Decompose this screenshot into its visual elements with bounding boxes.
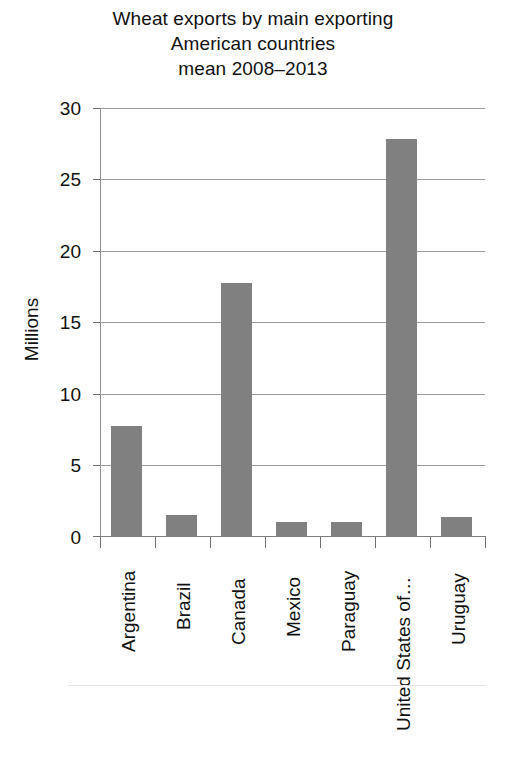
x-label-mexico: Mexico bbox=[284, 577, 303, 637]
x-tick-mark-5 bbox=[375, 537, 376, 548]
x-label-canada: Canada bbox=[229, 578, 248, 645]
gridline-25 bbox=[100, 179, 485, 180]
gridline-5 bbox=[100, 465, 485, 466]
x-tick-mark-0 bbox=[100, 537, 101, 548]
x-tick-mark-1 bbox=[155, 537, 156, 548]
x-tick-mark-4 bbox=[320, 537, 321, 548]
x-axis-line bbox=[100, 536, 486, 537]
bar-canada[interactable] bbox=[221, 283, 252, 536]
y-tick-label-20: 20 bbox=[35, 242, 81, 261]
x-label-united-states-of: United States of… bbox=[394, 577, 413, 731]
bar-mexico[interactable] bbox=[276, 522, 307, 536]
x-tick-mark-2 bbox=[210, 537, 211, 548]
y-tick-label-25: 25 bbox=[35, 170, 81, 189]
y-tick-label-0: 0 bbox=[35, 528, 81, 547]
x-tick-mark-6 bbox=[430, 537, 431, 548]
bar-argentina[interactable] bbox=[111, 426, 142, 536]
y-tick-label-15: 15 bbox=[35, 313, 81, 332]
gridline-15 bbox=[100, 322, 485, 323]
bottom-border-line bbox=[68, 685, 486, 686]
gridline-10 bbox=[100, 394, 485, 395]
y-axis-tick-labels: 30 25 20 15 10 5 0 bbox=[35, 0, 81, 781]
x-tick-mark-7 bbox=[485, 537, 486, 548]
y-tick-label-10: 10 bbox=[35, 385, 81, 404]
bar-paraguay[interactable] bbox=[331, 522, 362, 536]
y-tick-label-5: 5 bbox=[35, 456, 81, 475]
x-label-paraguay: Paraguay bbox=[339, 571, 358, 652]
y-tick-label-30: 30 bbox=[35, 99, 81, 118]
bar-brazil[interactable] bbox=[166, 515, 197, 536]
x-label-uruguay: Uruguay bbox=[449, 573, 468, 645]
gridline-20 bbox=[100, 251, 485, 252]
gridline-30 bbox=[100, 108, 485, 109]
bar-united-states-of[interactable] bbox=[386, 139, 417, 536]
x-label-brazil: Brazil bbox=[174, 582, 193, 630]
bar-uruguay[interactable] bbox=[441, 517, 472, 536]
x-label-argentina: Argentina bbox=[119, 571, 138, 652]
x-tick-mark-3 bbox=[265, 537, 266, 548]
plot-area bbox=[100, 108, 485, 536]
